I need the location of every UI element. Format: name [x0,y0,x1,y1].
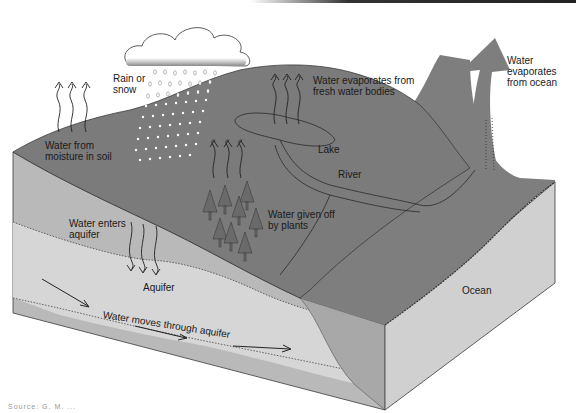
label-line: snow [113,84,145,95]
soil-evaporation-arrows [55,82,90,132]
label-line: Water given off [268,209,335,220]
label-line: fresh water bodies [313,86,414,97]
label-line: evaporates [507,66,557,77]
label-river: River [338,169,361,180]
label-plants: Water given off by plants [268,209,335,231]
label-line: by plants [268,220,335,231]
label-line: Rain or [113,73,145,84]
label-rain-or-snow: Rain or snow [113,73,145,95]
label-line: moisture in soil [45,151,112,162]
cloud-icon [125,28,250,66]
label-line: from ocean [507,77,557,88]
label-line: aquifer [69,229,126,240]
label-line: Water [507,55,557,66]
water-cycle-diagram: Rain or snow Water from moisture in soil… [0,0,576,413]
label-freshwater-evaporation: Water evaporates from fresh water bodies [313,75,414,97]
label-ocean-evaporation: Water evaporates from ocean [507,55,557,88]
label-line: Water enters [69,218,126,229]
label-lake: Lake [318,144,340,155]
label-ocean: Ocean [462,285,491,296]
label-soil-moisture: Water from moisture in soil [45,140,112,162]
label-line: Water from [45,140,112,151]
diagram-drawing [0,0,576,413]
source-credit: Source: G. M. ... [8,403,76,410]
label-aquifer: Aquifer [143,282,175,293]
label-enters-aquifer: Water enters aquifer [69,218,126,240]
label-line: Water evaporates from [313,75,414,86]
